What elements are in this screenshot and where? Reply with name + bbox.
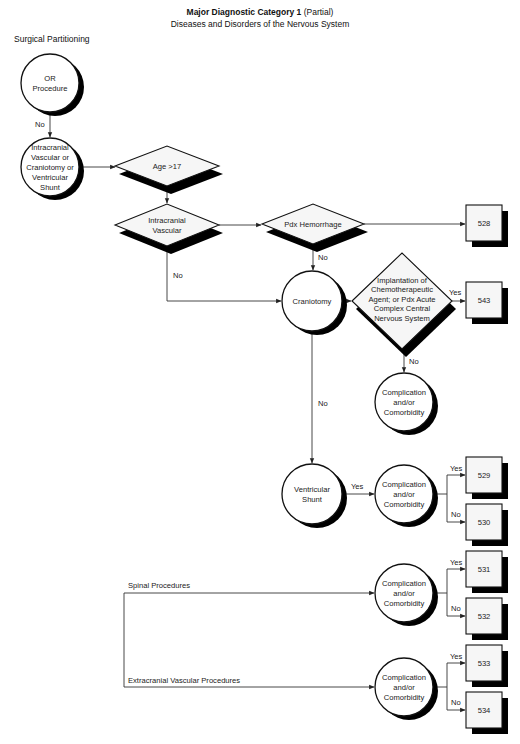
edge-label-no: No: [35, 120, 45, 129]
node-text-line: Procedure: [32, 84, 67, 93]
node-text-line: Agent; or Pdx Acute: [368, 295, 435, 304]
node-text-line: Craniotomy or: [26, 163, 74, 172]
edge-cc-spinal-yes: [447, 569, 465, 593]
node-text-line: Craniotomy: [293, 297, 332, 306]
edge-label-no: No: [451, 510, 461, 519]
node-text-line: OR: [44, 74, 56, 83]
node-text-line: 529: [478, 471, 491, 480]
nodes-layer: ORProcedureIntracranialVascular orCranio…: [21, 54, 508, 734]
node-or-procedure: ORProcedure: [21, 54, 84, 116]
node-drg-533: 533: [466, 645, 508, 687]
node-drg-531: 531: [466, 551, 508, 593]
node-text-line: Complication: [382, 388, 426, 397]
node-text-line: 533: [478, 659, 491, 668]
node-text-line: Shunt: [302, 495, 323, 504]
node-drg-534: 534: [466, 692, 508, 734]
node-text-line: 528: [478, 219, 491, 228]
node-text-line: and/or: [393, 398, 415, 407]
node-text-line: Comorbidity: [384, 408, 425, 417]
node-text-line: Vascular: [153, 226, 182, 235]
node-text-line: and/or: [393, 589, 415, 598]
node-text-line: Age >17: [153, 162, 182, 171]
edge-label-no: No: [318, 253, 328, 262]
node-text-line: 530: [478, 518, 491, 527]
node-cc-extracranial: Complicationand/orComorbidity: [375, 658, 438, 720]
node-cc-craniotomy: Complicationand/orComorbidity: [375, 373, 438, 435]
flowchart: ORProcedureIntracranialVascular orCranio…: [0, 0, 520, 744]
node-text-line: Nervous System: [374, 314, 430, 323]
node-drg-528: 528: [466, 205, 508, 247]
edge-cc-extracranial-yes: [447, 663, 465, 687]
edge-label-yes: Yes: [450, 464, 463, 473]
edge-label-yes: Yes: [450, 652, 463, 661]
node-text-line: Shunt: [40, 183, 61, 192]
node-drg-532: 532: [466, 598, 508, 640]
node-text-line: Complication: [382, 579, 426, 588]
node-age: Age >17: [115, 146, 223, 194]
edge-label-no: No: [451, 604, 461, 613]
spinal-procedures-label: Spinal Procedures: [128, 581, 190, 590]
node-drg-530: 530: [466, 504, 508, 546]
node-intracranial-vascular: IntracranialVascular: [115, 204, 223, 254]
node-text-line: Ventricular: [294, 485, 330, 494]
edge-label-no: No: [318, 399, 328, 408]
node-text-line: 531: [478, 565, 491, 574]
node-text-line: Complication: [382, 673, 426, 682]
node-text-line: and/or: [393, 683, 415, 692]
node-cc-shunt: Complicationand/orComorbidity: [375, 465, 438, 527]
node-text-line: Intracranial: [148, 216, 186, 225]
node-cc-spinal: Complicationand/orComorbidity: [375, 564, 438, 626]
node-implantation: Implantation ofChemotherapeuticAgent; or…: [352, 253, 456, 357]
node-text-line: Comorbidity: [384, 693, 425, 702]
node-text-line: 534: [478, 706, 491, 715]
edge-label-no: No: [451, 698, 461, 707]
node-text-line: Intracranial: [31, 143, 69, 152]
node-craniotomy: Craniotomy: [282, 271, 347, 335]
edge-label-yes: Yes: [449, 288, 462, 297]
node-text-line: Implantation of: [377, 276, 428, 285]
edge-vascular-no-to-craniotomy: [167, 246, 281, 301]
node-text-line: Ventricular: [32, 173, 68, 182]
edge-label-no: No: [173, 271, 183, 280]
node-drg-529: 529: [466, 457, 508, 499]
edge-cc-shunt-yes: [447, 475, 465, 494]
node-text-line: and/or: [393, 490, 415, 499]
node-intracranial-group: IntracranialVascular orCraniotomy orVent…: [21, 138, 84, 200]
extracranial-procedures-label: Extracranial Vascular Procedures: [128, 676, 240, 685]
node-text-line: Complication: [382, 480, 426, 489]
node-text-line: Comorbidity: [384, 599, 425, 608]
node-text-line: Pdx Hemorrhage: [284, 220, 341, 229]
edge-label-yes: Yes: [351, 482, 364, 491]
edge-label-yes: Yes: [450, 558, 463, 567]
node-ventricular-shunt: VentricularShunt: [282, 464, 347, 528]
node-text-line: Comorbidity: [384, 500, 425, 509]
node-text-line: Chemotherapeutic: [371, 285, 433, 294]
node-pdx-hemorrhage: Pdx Hemorrhage: [262, 204, 368, 252]
node-text-line: 532: [478, 612, 491, 621]
node-drg-543: 543: [466, 282, 508, 324]
node-text-line: Complex Central: [374, 304, 431, 313]
node-text-line: 543: [478, 296, 491, 305]
node-text-line: Vascular or: [31, 153, 69, 162]
edge-label-no: No: [409, 357, 419, 366]
